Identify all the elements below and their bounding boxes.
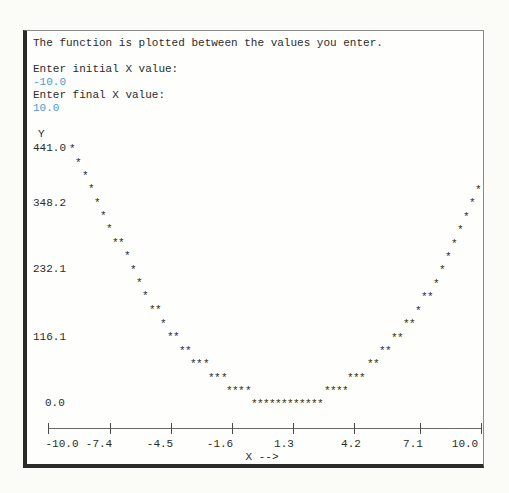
plot-point: * (373, 359, 379, 370)
plot-point: * (155, 305, 161, 316)
x-tick-label: -4.5 (147, 438, 173, 451)
plot-point: * (445, 252, 451, 263)
plot-point: * (196, 359, 202, 370)
plot-point: * (94, 198, 100, 209)
plot-point: * (136, 278, 142, 289)
plot-point: * (203, 359, 209, 370)
y-tick-label: 232.1 (33, 263, 66, 276)
plot-point: * (409, 319, 415, 330)
plot-point: * (359, 373, 365, 384)
plot-point: * (100, 211, 106, 222)
plot-point: * (457, 225, 463, 236)
x-axis-line (48, 428, 482, 429)
plot-point: * (433, 279, 439, 290)
plot-point: * (221, 373, 227, 384)
plot-point: * (75, 158, 81, 169)
y-tick-label: 348.2 (33, 197, 66, 210)
plot-point: * (160, 319, 166, 330)
plot-point: * (82, 171, 88, 182)
plot-point: * (451, 239, 457, 250)
x-tick-mark (232, 423, 233, 434)
x-tick-label: -10.0 (45, 438, 78, 451)
y-tick-label: 441.0 (33, 142, 66, 155)
plot-point: * (238, 386, 244, 397)
plot-point: * (130, 265, 136, 276)
plot-point: * (124, 251, 130, 262)
plot-point: * (427, 292, 433, 303)
x-tick-mark (110, 423, 111, 434)
x-tick-mark (171, 423, 172, 434)
x-tick-mark (481, 423, 482, 434)
plot-point: * (342, 386, 348, 397)
plot-point: * (397, 333, 403, 344)
y-axis-label: Y (38, 128, 45, 141)
y-tick-label: 0.0 (45, 397, 65, 410)
y-tick-label: 116.1 (33, 331, 66, 344)
x-tick-label: -7.4 (86, 438, 112, 451)
plot-point: * (142, 291, 148, 302)
prompt-final-x: Enter final X value: (33, 89, 165, 102)
plot-point: * (469, 198, 475, 209)
x-tick-label: 1.3 (274, 438, 294, 451)
plot-point: * (88, 184, 94, 195)
x-axis-label: X --> (245, 451, 278, 464)
plot-point: * (118, 238, 124, 249)
plot-point: * (463, 212, 469, 223)
x-tick-mark (354, 423, 355, 434)
prompt-initial-x: Enter initial X value: (33, 63, 178, 76)
plot-point: * (317, 399, 323, 410)
x-tick-label: 10.0 (452, 438, 478, 451)
x-tick-label: 7.1 (403, 438, 423, 451)
plot-point: * (439, 265, 445, 276)
plot-point: * (415, 306, 421, 317)
plot-point: * (185, 346, 191, 357)
plot-point: * (475, 185, 481, 196)
x-tick-mark (48, 423, 49, 434)
x-tick-label: -1.6 (207, 438, 233, 451)
plot-point: * (106, 224, 112, 235)
plot-point: * (214, 373, 220, 384)
initial-x-input[interactable]: -10.0 (33, 76, 66, 89)
x-tick-label: 4.2 (341, 438, 361, 451)
intro-text: The function is plotted between the valu… (33, 37, 383, 50)
x-tick-mark (420, 423, 421, 434)
plot-point: * (173, 332, 179, 343)
x-tick-mark (293, 423, 294, 434)
plot-point: * (245, 386, 251, 397)
plot-point: * (69, 144, 75, 155)
final-x-input[interactable]: 10.0 (33, 102, 59, 115)
plot-point: * (385, 346, 391, 357)
